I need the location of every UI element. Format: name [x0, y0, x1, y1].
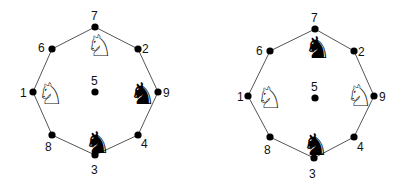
node-dot-3 [310, 154, 317, 161]
node-label-1: 1 [237, 90, 244, 104]
right-octagon-diagram: ♞♘♘♞729438165 [237, 11, 386, 181]
node-dot-6 [266, 47, 273, 54]
white-knight-icon: ♘ [346, 78, 373, 113]
white-knight-icon: ♘ [256, 80, 283, 115]
node-label-5: 5 [91, 74, 98, 88]
node-label-2: 2 [142, 42, 149, 56]
white-knight-icon: ♘ [86, 28, 113, 63]
node-dot-5 [91, 88, 98, 95]
knight-puzzle-diagram: ♘♘♞♞729438165 ♞♘♘♞729438165 [0, 0, 404, 187]
node-dot-2 [134, 45, 141, 52]
node-label-8: 8 [264, 143, 271, 157]
node-label-9: 9 [379, 90, 386, 104]
left-octagon-diagram: ♘♘♞♞729438165 [20, 9, 170, 177]
node-label-6: 6 [38, 41, 45, 55]
node-dot-8 [266, 133, 273, 140]
node-dot-5 [311, 94, 318, 101]
node-dot-3 [91, 151, 98, 158]
node-label-4: 4 [141, 137, 148, 151]
node-label-1: 1 [20, 86, 27, 100]
node-label-9: 9 [163, 86, 170, 100]
node-label-8: 8 [45, 140, 52, 154]
node-label-5: 5 [311, 80, 318, 94]
black-knight-icon: ♞ [129, 76, 156, 111]
node-dot-6 [48, 45, 55, 52]
node-label-7: 7 [91, 9, 98, 23]
node-dot-7 [91, 23, 98, 30]
node-dot-8 [48, 131, 55, 138]
white-knight-icon: ♘ [37, 76, 64, 111]
node-dot-9 [154, 88, 161, 95]
node-label-7: 7 [311, 11, 318, 25]
node-label-6: 6 [256, 44, 263, 58]
node-label-2: 2 [358, 45, 365, 59]
node-label-4: 4 [357, 140, 364, 154]
black-knight-icon: ♞ [304, 30, 331, 65]
node-dot-2 [350, 47, 357, 54]
node-dot-1 [244, 92, 251, 99]
node-dot-9 [370, 92, 377, 99]
node-dot-1 [29, 88, 36, 95]
node-dot-7 [311, 25, 318, 32]
node-label-3: 3 [309, 167, 316, 181]
node-label-3: 3 [91, 163, 98, 177]
